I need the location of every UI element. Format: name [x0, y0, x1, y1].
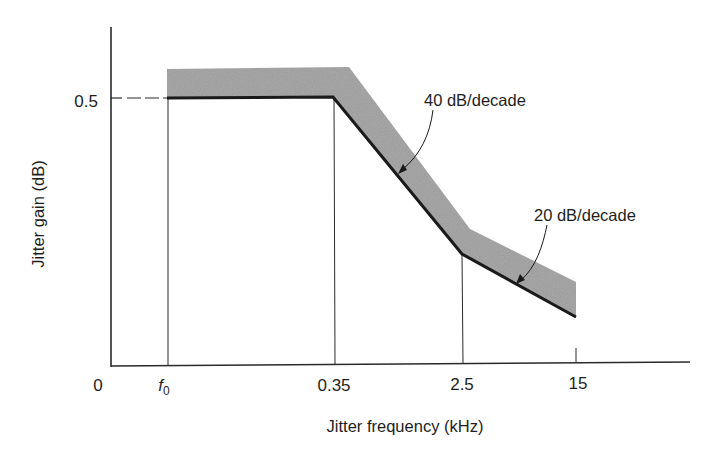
jitter-gain-chart: 40 dB/decade 20 dB/decade 0.5 Jitter gai… [0, 0, 717, 465]
x-axis [111, 362, 690, 366]
x-tick-label-2.5: 2.5 [450, 375, 474, 394]
x-tick-label-0: 0 [93, 376, 102, 395]
guide-0.35 [334, 97, 335, 365]
x-tick-label-15: 15 [569, 374, 588, 393]
guide-2.5 [462, 254, 463, 363]
y-tick-label-0.5: 0.5 [74, 92, 98, 111]
x-tick-label-f0: f0 [158, 376, 170, 398]
annotation-40db: 40 dB/decade [424, 91, 526, 109]
x-tick-label-0.35: 0.35 [317, 376, 350, 395]
x-axis-label: Jitter frequency (kHz) [327, 417, 484, 435]
y-axis-label: Jitter gain (dB) [29, 160, 47, 267]
annotation-20db: 20 dB/decade [534, 206, 636, 224]
f0-subscript: 0 [163, 384, 170, 398]
